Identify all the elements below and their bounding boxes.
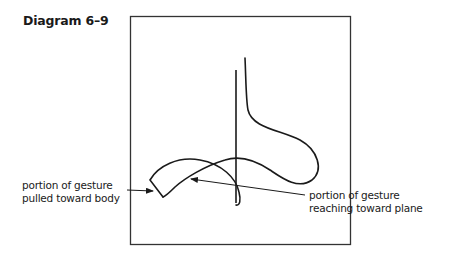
label-reaching-toward-plane: portion of gesture reaching toward plane [309, 189, 423, 215]
label-reaching-line1: portion of gesture [309, 189, 423, 202]
gesture-curve-upper-loop [163, 58, 318, 197]
label-reaching-line2: reaching toward plane [309, 202, 423, 215]
label-pulled-line2: pulled toward body [22, 192, 120, 205]
diagram-canvas [0, 0, 449, 263]
gesture-curve-crescent [150, 159, 240, 205]
label-pulled-line1: portion of gesture [22, 179, 120, 192]
label-pulled-toward-body: portion of gesture pulled toward body [22, 179, 120, 205]
